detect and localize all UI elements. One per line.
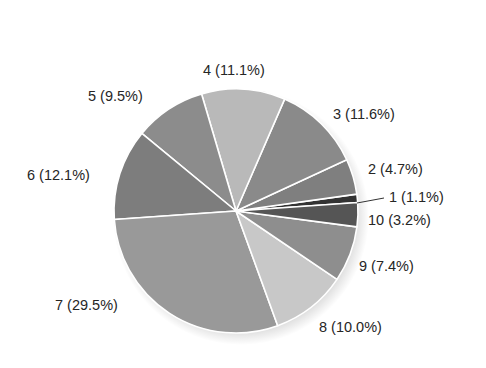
slice-label-1: 1 (1.1%) bbox=[389, 189, 444, 205]
slice-label-8: 8 (10.0%) bbox=[319, 319, 382, 335]
slice-label-4: 4 (11.1%) bbox=[203, 62, 265, 78]
slice-label-9: 9 (7.4%) bbox=[359, 258, 414, 274]
slice-label-10: 10 (3.2%) bbox=[368, 212, 431, 228]
slice-label-7: 7 (29.5%) bbox=[55, 297, 118, 313]
slice-label-3: 3 (11.6%) bbox=[333, 106, 395, 122]
slice-label-5: 5 (9.5%) bbox=[88, 88, 143, 104]
pie-chart-canvas: 1 (1.1%)2 (4.7%)3 (11.6%)4 (11.1%)5 (9.5… bbox=[0, 0, 486, 368]
slice-label-2: 2 (4.7%) bbox=[368, 161, 423, 177]
pie-slices bbox=[114, 89, 358, 333]
slice-label-6: 6 (12.1%) bbox=[27, 167, 90, 183]
pie-chart: 1 (1.1%)2 (4.7%)3 (11.6%)4 (11.1%)5 (9.5… bbox=[0, 0, 486, 368]
